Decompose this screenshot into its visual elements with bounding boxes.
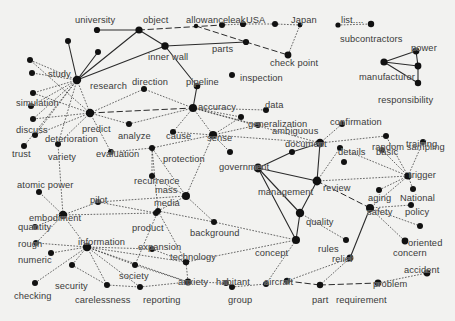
graph-node[interactable] xyxy=(149,145,155,151)
graph-node[interactable] xyxy=(30,90,36,96)
graph-node[interactable] xyxy=(194,83,201,90)
graph-node[interactable] xyxy=(211,219,217,225)
graph-node[interactable] xyxy=(59,211,67,219)
graph-node[interactable] xyxy=(126,121,132,127)
graph-node[interactable] xyxy=(229,72,235,78)
graph-edge xyxy=(300,181,317,213)
graph-node[interactable] xyxy=(182,192,190,200)
graph-node[interactable] xyxy=(86,109,94,117)
graph-node[interactable] xyxy=(95,199,101,205)
graph-node[interactable] xyxy=(135,26,142,33)
graph-node[interactable] xyxy=(149,246,155,252)
graph-node[interactable] xyxy=(254,164,263,173)
graph-node[interactable] xyxy=(184,278,191,285)
graph-node[interactable] xyxy=(368,21,374,27)
graph-node[interactable] xyxy=(317,282,323,288)
graph-node[interactable] xyxy=(289,149,295,155)
graph-node[interactable] xyxy=(420,139,426,145)
graph-node[interactable] xyxy=(108,149,114,155)
graph-node[interactable] xyxy=(189,104,197,112)
graph-node[interactable] xyxy=(376,187,382,193)
graph-node[interactable] xyxy=(229,284,235,290)
graph-node[interactable] xyxy=(170,129,176,135)
graph-node[interactable] xyxy=(83,243,91,251)
graph-node[interactable] xyxy=(343,237,349,243)
graph-node[interactable] xyxy=(316,139,324,147)
graph-node[interactable] xyxy=(263,281,269,287)
graph-node[interactable] xyxy=(415,80,421,86)
graph-edge xyxy=(350,208,370,258)
graph-node[interactable] xyxy=(95,49,101,55)
graph-node[interactable] xyxy=(366,204,374,212)
graph-node[interactable] xyxy=(375,280,382,287)
graph-node[interactable] xyxy=(379,147,385,153)
graph-node[interactable] xyxy=(149,173,155,179)
graph-node[interactable] xyxy=(209,131,217,139)
graph-node[interactable] xyxy=(404,172,411,179)
graph-node[interactable] xyxy=(337,145,343,151)
graph-edge xyxy=(408,142,423,176)
graph-node[interactable] xyxy=(424,270,431,277)
graph-node[interactable] xyxy=(94,27,100,33)
graph-node[interactable] xyxy=(413,48,420,55)
graph-node[interactable] xyxy=(380,58,387,65)
graph-node[interactable] xyxy=(335,22,340,27)
graph-node[interactable] xyxy=(415,63,422,70)
graph-node[interactable] xyxy=(339,121,345,127)
graph-node[interactable] xyxy=(29,70,35,76)
graph-edge xyxy=(320,136,386,143)
graph-node[interactable] xyxy=(28,103,34,109)
graph-edge xyxy=(382,150,408,176)
graph-node[interactable] xyxy=(223,280,229,286)
graph-node[interactable] xyxy=(65,38,71,44)
graph-node[interactable] xyxy=(132,262,138,268)
graph-node[interactable] xyxy=(33,240,39,246)
graph-edge xyxy=(31,80,77,106)
graph-node[interactable] xyxy=(104,282,110,288)
graph-node[interactable] xyxy=(227,149,233,155)
graph-node[interactable] xyxy=(48,250,54,256)
graph-node[interactable] xyxy=(284,278,290,284)
graph-node[interactable] xyxy=(313,177,322,186)
graph-edge xyxy=(317,143,320,181)
graph-node[interactable] xyxy=(298,23,303,28)
graph-node[interactable] xyxy=(141,86,147,92)
graph-node[interactable] xyxy=(21,143,27,149)
graph-node[interactable] xyxy=(417,223,423,229)
graph-node[interactable] xyxy=(383,133,389,139)
graph-node[interactable] xyxy=(410,186,416,192)
graph-node[interactable] xyxy=(32,132,38,138)
graph-node[interactable] xyxy=(153,210,159,216)
graph-node[interactable] xyxy=(30,116,36,122)
graph-node[interactable] xyxy=(194,24,198,28)
graph-node[interactable] xyxy=(408,202,414,208)
graph-node[interactable] xyxy=(161,42,168,49)
graph-node[interactable] xyxy=(402,238,409,245)
graph-node[interactable] xyxy=(285,52,292,59)
graph-node[interactable] xyxy=(32,224,38,230)
graph-edge xyxy=(213,135,320,143)
graph-node[interactable] xyxy=(240,21,246,27)
graph-node[interactable] xyxy=(183,259,189,265)
graph-node[interactable] xyxy=(27,57,33,63)
graph-edge xyxy=(370,205,411,208)
graph-node[interactable] xyxy=(243,39,249,45)
graph-node[interactable] xyxy=(55,141,61,147)
graph-edge xyxy=(165,46,197,86)
graph-node[interactable] xyxy=(36,189,42,195)
graph-node[interactable] xyxy=(238,114,244,120)
graph-node[interactable] xyxy=(263,107,269,113)
graph-node[interactable] xyxy=(32,280,38,286)
graph-node[interactable] xyxy=(137,284,143,290)
graph-node[interactable] xyxy=(341,159,347,165)
graph-node[interactable] xyxy=(255,122,261,128)
graph-node[interactable] xyxy=(272,21,278,27)
graph-node[interactable] xyxy=(347,255,354,262)
graph-node[interactable] xyxy=(69,262,75,268)
graph-node[interactable] xyxy=(292,236,300,244)
graph-node[interactable] xyxy=(73,76,81,84)
graph-edge xyxy=(90,113,111,152)
graph-node[interactable] xyxy=(219,22,225,28)
graph-edge xyxy=(232,284,266,287)
graph-node[interactable] xyxy=(296,209,304,217)
